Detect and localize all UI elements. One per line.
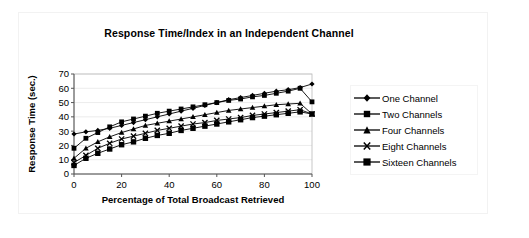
y-axis-tick-label: 70 — [58, 68, 69, 79]
legend-item-one-channel[interactable]: One Channel — [354, 90, 474, 106]
legend-label: One Channel — [382, 93, 438, 104]
data-point-square — [155, 111, 160, 116]
data-point-square — [107, 124, 112, 129]
data-point-square — [167, 131, 172, 136]
x-axis-tick-label: 0 — [71, 179, 76, 190]
data-point-diamond — [309, 81, 314, 86]
data-point-square — [167, 109, 172, 114]
cross-marker-icon — [354, 139, 380, 153]
y-axis-tick-label: 30 — [58, 126, 69, 137]
data-point-square — [71, 163, 76, 168]
data-point-square — [95, 151, 100, 156]
data-point-square — [191, 104, 196, 109]
data-point-square — [95, 130, 100, 135]
data-point-square — [72, 146, 77, 151]
data-point-triangle — [95, 139, 101, 144]
data-point-square — [83, 156, 88, 161]
square-large-marker-icon — [354, 155, 380, 169]
legend-item-four-channels[interactable]: Four Channels — [354, 122, 474, 138]
data-point-square — [203, 102, 208, 107]
legend-label: Sixteen Channels — [382, 157, 456, 168]
data-point-square — [143, 136, 148, 141]
x-axis-tick-label: 80 — [259, 179, 270, 190]
data-point-square — [310, 99, 315, 104]
data-point-square — [250, 115, 255, 120]
data-point-square — [309, 111, 314, 116]
data-point-square — [226, 119, 231, 124]
x-axis-tick-label: 60 — [212, 179, 223, 190]
data-point-diamond — [83, 129, 88, 134]
x-axis-title: Percentage of Total Broadcast Retrieved — [102, 194, 285, 205]
data-point-square — [190, 126, 195, 131]
y-axis-tick-label: 60 — [58, 83, 69, 94]
y-axis-tick-label: 10 — [58, 154, 69, 165]
data-point-square — [274, 91, 279, 96]
data-point-square — [298, 86, 303, 91]
data-point-square — [250, 94, 255, 99]
data-point-square — [119, 142, 124, 147]
y-axis-tick-label: 0 — [64, 168, 69, 179]
data-point-square — [214, 121, 219, 126]
data-point-square — [131, 139, 136, 144]
data-point-square — [262, 113, 267, 118]
data-point-square — [238, 117, 243, 122]
data-point-square — [286, 89, 291, 94]
data-point-square — [286, 111, 291, 116]
data-point-square — [214, 100, 219, 105]
x-axis-tick-label: 100 — [304, 179, 320, 190]
data-point-square — [226, 98, 231, 103]
data-point-square — [178, 128, 183, 133]
legend-item-two-channels[interactable]: Two Channels — [354, 106, 474, 122]
data-point-square — [131, 117, 136, 122]
diamond-marker-icon — [354, 91, 380, 105]
y-axis-tick-label: 50 — [58, 97, 69, 108]
data-point-square — [297, 109, 302, 114]
y-axis-title: Response Time (sec.) — [26, 75, 37, 173]
data-point-square — [155, 133, 160, 138]
data-point-square — [107, 146, 112, 151]
data-point-square — [179, 107, 184, 112]
data-point-square — [119, 119, 124, 124]
square-marker-icon — [354, 107, 380, 121]
data-point-diamond — [71, 131, 76, 136]
data-point-cross — [95, 146, 100, 151]
triangle-marker-icon — [354, 123, 380, 137]
x-axis-tick-label: 40 — [164, 179, 175, 190]
y-axis-tick-label: 40 — [58, 111, 69, 122]
legend-item-eight-channels[interactable]: Eight Channels — [354, 138, 474, 154]
chart-container: Response Time/Index in an Independent Ch… — [18, 12, 488, 214]
data-point-square — [202, 123, 207, 128]
legend-label: Four Channels — [382, 125, 444, 136]
chart-legend: One Channel Two Channels Four Channels E… — [350, 85, 478, 175]
legend-item-sixteen-channels[interactable]: Sixteen Channels — [354, 154, 474, 170]
data-point-triangle — [83, 145, 89, 150]
data-point-square — [262, 93, 267, 98]
legend-label: Two Channels — [382, 109, 442, 120]
x-axis-tick-label: 20 — [116, 179, 127, 190]
y-axis-tick-label: 20 — [58, 140, 69, 151]
data-point-square — [143, 114, 148, 119]
data-point-square — [84, 136, 89, 141]
data-point-square — [274, 112, 279, 117]
legend-label: Eight Channels — [382, 141, 446, 152]
data-point-square — [238, 97, 243, 102]
